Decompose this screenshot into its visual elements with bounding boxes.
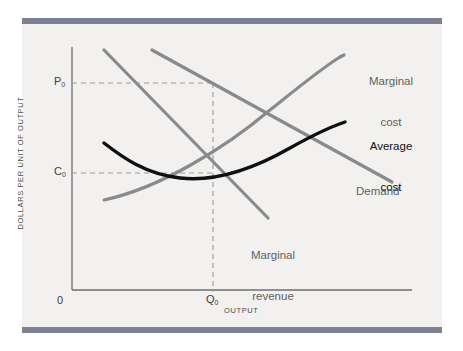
marginal-cost-leader bbox=[340, 55, 344, 57]
quantity-tick-label: Q0 bbox=[206, 293, 218, 306]
price-tick-sub: 0 bbox=[61, 81, 65, 88]
cost-tick-sub: 0 bbox=[62, 171, 66, 178]
average-cost-label: Average cost bbox=[348, 113, 434, 222]
figure-root: DOLLARS PER UNIT OF OUTPUT OUTPUT 0 P0 C… bbox=[0, 0, 463, 351]
quantity-tick-letter: Q bbox=[206, 293, 215, 305]
price-tick-label: P0 bbox=[54, 75, 65, 88]
y-axis-title: DOLLARS PER UNIT OF OUTPUT bbox=[17, 99, 26, 229]
cost-tick-label: C0 bbox=[54, 165, 66, 178]
quantity-tick-sub: 0 bbox=[215, 299, 219, 306]
cost-tick-letter: C bbox=[54, 165, 62, 177]
demand-label: Demand bbox=[356, 185, 436, 199]
average-cost-label-line1: Average bbox=[348, 140, 434, 154]
average-cost-curve bbox=[104, 122, 345, 179]
marginal-cost-curve bbox=[104, 57, 340, 200]
origin-label: 0 bbox=[57, 294, 63, 307]
marginal-revenue-label-line2: revenue bbox=[230, 290, 316, 304]
marginal-revenue-label-line1: Marginal bbox=[230, 249, 316, 263]
marginal-cost-label-line1: Marginal bbox=[348, 75, 434, 89]
marginal-revenue-label: Marginal revenue bbox=[230, 222, 316, 331]
